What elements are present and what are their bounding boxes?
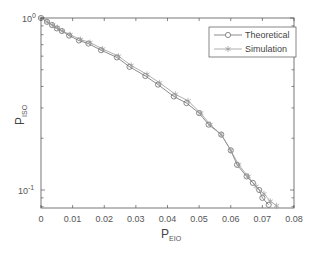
x-tick-label: 0 — [38, 214, 43, 224]
x-tick-label: 0.04 — [159, 214, 177, 224]
legend: Theoretical Simulation — [209, 27, 296, 57]
x-tick-label: 0.07 — [254, 214, 272, 224]
asterisk-marker-icon — [116, 53, 121, 59]
x-axis-label: PEIO — [161, 227, 182, 242]
x-tick-label: 0.01 — [64, 214, 82, 224]
asterisk-marker-icon — [144, 71, 149, 77]
circle-marker-icon — [225, 32, 230, 37]
asterisk-marker-icon — [129, 62, 134, 68]
svg-text:PISO: PISO — [13, 104, 28, 125]
y-tick-label-top: 100 — [22, 12, 36, 24]
asterisk-marker-icon — [87, 40, 92, 46]
x-tick-label: 0.06 — [222, 214, 240, 224]
y-tick-label-bottom: 10-1 — [18, 184, 34, 196]
svg-text:Theoretical: Theoretical — [245, 30, 290, 40]
chart: 00.010.020.030.040.050.060.070.08 100 10… — [0, 0, 318, 254]
x-tick-label: 0.03 — [127, 214, 145, 224]
x-tick-label: 0.08 — [285, 214, 303, 224]
y-axis-label: PISO — [13, 104, 28, 125]
x-tick-label: 0.02 — [95, 214, 113, 224]
asterisk-marker-icon — [100, 46, 105, 52]
x-tick-label: 0.05 — [190, 214, 208, 224]
svg-text:Simulation: Simulation — [245, 44, 287, 54]
